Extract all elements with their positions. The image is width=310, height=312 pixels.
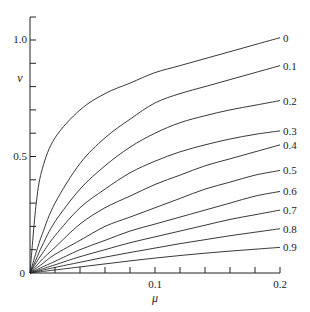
curve-label-0.1: 0.1 bbox=[283, 60, 297, 72]
curve-label-0.4: 0.4 bbox=[283, 139, 297, 151]
curve-label-0.7: 0.7 bbox=[283, 204, 297, 216]
curve-label-0.3: 0.3 bbox=[283, 125, 297, 137]
x-tick-label-0.1: 0.1 bbox=[148, 278, 162, 290]
curve-label-0.6: 0.6 bbox=[283, 185, 297, 197]
curve-label-0.5: 0.5 bbox=[283, 164, 297, 176]
curve-0.4 bbox=[30, 145, 280, 273]
y-tick-label-1.0: 1.0 bbox=[13, 33, 27, 45]
curves bbox=[30, 38, 280, 273]
curve-label-0.9: 0.9 bbox=[283, 241, 297, 253]
axes bbox=[30, 17, 280, 273]
curve-label-0: 0 bbox=[283, 32, 289, 44]
y-axis-label: ν bbox=[17, 71, 23, 85]
chart: 00.10.20.30.40.50.60.70.80.9 1.0 0.5 0 0… bbox=[0, 0, 310, 312]
curve-0.3 bbox=[30, 131, 280, 273]
curve-label-0.8: 0.8 bbox=[283, 223, 297, 235]
origin-label: 0 bbox=[20, 267, 26, 279]
curve-labels: 00.10.20.30.40.50.60.70.80.9 bbox=[283, 32, 297, 254]
x-axis-label: μ bbox=[151, 291, 158, 305]
x-tick-label-0.2: 0.2 bbox=[273, 278, 287, 290]
curve-0.7 bbox=[30, 210, 280, 273]
curve-0.5 bbox=[30, 170, 280, 273]
y-tick-label-0.5: 0.5 bbox=[13, 150, 27, 162]
x-ticks bbox=[55, 267, 280, 273]
curve-0.1 bbox=[30, 66, 280, 273]
curve-label-0.2: 0.2 bbox=[283, 95, 297, 107]
